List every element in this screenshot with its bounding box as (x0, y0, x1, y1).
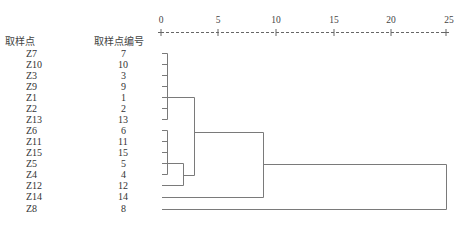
dendrogram-plot (0, 0, 468, 227)
x-axis (158, 29, 449, 36)
dendrogram-branches (162, 54, 447, 210)
